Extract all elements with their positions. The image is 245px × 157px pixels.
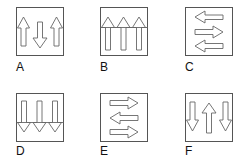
arrows-down-up-down-icon: [185, 93, 233, 142]
arrows-right-left-right-icon: [100, 93, 148, 142]
panel-label-c: C: [185, 61, 194, 73]
panel-label-d: D: [16, 145, 25, 157]
arrows-up-up-up-icon: [100, 7, 148, 56]
panel-label-e: E: [100, 145, 108, 157]
panel-label-b: B: [100, 61, 108, 73]
panel-d: [16, 93, 64, 142]
panel-b: [100, 7, 148, 56]
panel-a: [16, 7, 64, 56]
arrows-left-right-left-icon: [185, 7, 233, 56]
panel-f: [185, 93, 233, 142]
arrows-up-down-up-icon: [16, 7, 64, 56]
panel-e: [100, 93, 148, 142]
panel-label-a: A: [16, 61, 24, 73]
arrows-down-down-down-icon: [16, 93, 64, 142]
panel-label-f: F: [185, 145, 192, 157]
panel-c: [185, 7, 233, 56]
